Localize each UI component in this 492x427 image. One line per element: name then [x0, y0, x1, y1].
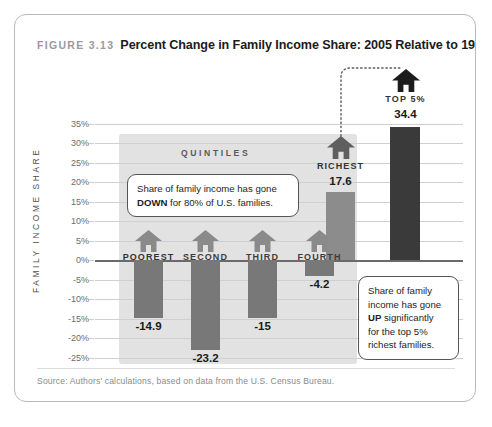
callout-up-line4: for the top 5%: [368, 325, 449, 339]
house-icon-richest: [327, 136, 355, 159]
gridline-35: [95, 124, 463, 125]
value-label-richest: 17.6: [311, 175, 370, 187]
category-label-poorest: POOREST: [119, 252, 178, 262]
callout-up-line3: UP significantly: [368, 311, 449, 325]
tick-15: [89, 202, 94, 203]
tick-neg10: [89, 299, 94, 300]
callout-up: Share of family income has gone UP signi…: [358, 276, 459, 360]
tick-neg5: [89, 280, 94, 281]
callout-down: Share of family income has gone DOWN for…: [127, 174, 299, 217]
house-icon-poorest: [135, 230, 162, 252]
y-tick-label: 35%: [49, 119, 89, 129]
house-icon-top5: [392, 69, 420, 92]
bar-fourth[interactable]: [305, 260, 334, 276]
y-tick-label: 0%: [49, 255, 89, 265]
tick-neg25: [89, 358, 94, 359]
value-label-top5: 34.4: [375, 108, 436, 120]
callout-down-rest: for 80% of U.S. families.: [167, 197, 273, 208]
house-icon-fourth: [306, 230, 333, 252]
y-tick-label: 20%: [49, 177, 89, 187]
bar-top5[interactable]: [390, 127, 420, 260]
callout-up-line5: richest families.: [368, 338, 449, 352]
callout-up-line2: income has gone: [368, 298, 449, 312]
y-tick-label: -15%: [49, 314, 89, 324]
chart-plot-area: FAMILY INCOME SHARE: [15, 15, 476, 402]
callout-down-line2: DOWN for 80% of U.S. families.: [137, 196, 289, 210]
value-label-poorest: -14.9: [119, 320, 178, 332]
value-label-third: -15: [233, 320, 292, 332]
tick-0: [89, 260, 94, 261]
callout-up-rest: significantly: [381, 312, 433, 323]
tick-neg20: [89, 338, 94, 339]
y-tick-label: -25%: [49, 353, 89, 363]
y-tick-label: 15%: [49, 197, 89, 207]
category-label-top5: TOP 5%: [376, 94, 435, 104]
y-tick-label: -20%: [49, 333, 89, 343]
y-tick-label: 30%: [49, 138, 89, 148]
callout-up-line1: Share of family: [368, 284, 449, 298]
category-label-fourth: FOURTH: [290, 252, 349, 262]
quintiles-group-label: QUINTILES: [181, 148, 250, 158]
category-label-third: THIRD: [233, 252, 292, 262]
tick-30: [89, 143, 94, 144]
tick-20: [89, 182, 94, 183]
tick-10: [89, 221, 94, 222]
value-label-fourth: -4.2: [290, 278, 349, 290]
tick-35: [89, 124, 94, 125]
figure-card: FIGURE 3.13Percent Change in Family Inco…: [14, 14, 476, 402]
callout-up-emphasis: UP: [368, 312, 381, 323]
y-axis-title: FAMILY INCOME SHARE: [29, 135, 43, 305]
house-icon-second: [192, 230, 219, 252]
y-tick-label: 5%: [49, 236, 89, 246]
callout-down-line1: Share of family income has gone: [137, 182, 289, 196]
y-tick-label: 25%: [49, 158, 89, 168]
callout-down-emphasis: DOWN: [137, 197, 167, 208]
house-icon-third: [249, 230, 276, 252]
bar-second[interactable]: [191, 260, 220, 350]
y-tick-label: 10%: [49, 216, 89, 226]
bar-poorest[interactable]: [134, 260, 163, 318]
y-tick-label: -10%: [49, 294, 89, 304]
category-label-second: SECOND: [176, 252, 235, 262]
source-divider: [37, 368, 455, 369]
source-note: Source: Authors' calculations, based on …: [37, 376, 334, 386]
bar-third[interactable]: [248, 260, 277, 318]
value-label-second: -23.2: [176, 352, 235, 364]
tick-25: [89, 163, 94, 164]
y-tick-label: -5%: [49, 275, 89, 285]
tick-neg15: [89, 319, 94, 320]
tick-5: [89, 241, 94, 242]
category-label-richest: RICHEST: [311, 161, 370, 171]
